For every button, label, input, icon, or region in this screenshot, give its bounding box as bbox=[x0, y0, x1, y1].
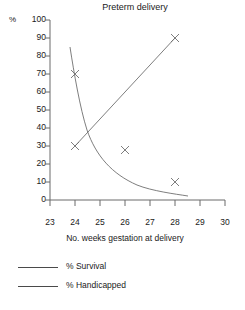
series-markers-handicapped bbox=[71, 70, 179, 186]
legend-item-handicapped: % Handicapped bbox=[0, 277, 245, 296]
chart-legend: % Survival % Handicapped bbox=[0, 258, 245, 296]
legend-line-swatch-survival bbox=[18, 267, 58, 268]
x-axis-title: No. weeks gestation at delivery bbox=[20, 233, 230, 243]
legend-line-swatch-handicapped bbox=[18, 286, 58, 287]
series-line-handicapped bbox=[70, 47, 188, 196]
legend-label-handicapped: % Handicapped bbox=[66, 280, 126, 291]
plot-area bbox=[0, 0, 245, 252]
legend-item-survival: % Survival bbox=[0, 258, 245, 277]
figure-container: Preterm delivery % 100 90 80 70 60 50 40… bbox=[0, 0, 245, 310]
legend-label-survival: % Survival bbox=[66, 261, 106, 272]
y-tick-marks bbox=[45, 20, 50, 200]
x-tick-marks bbox=[50, 200, 225, 206]
series-line-survival bbox=[75, 38, 175, 146]
